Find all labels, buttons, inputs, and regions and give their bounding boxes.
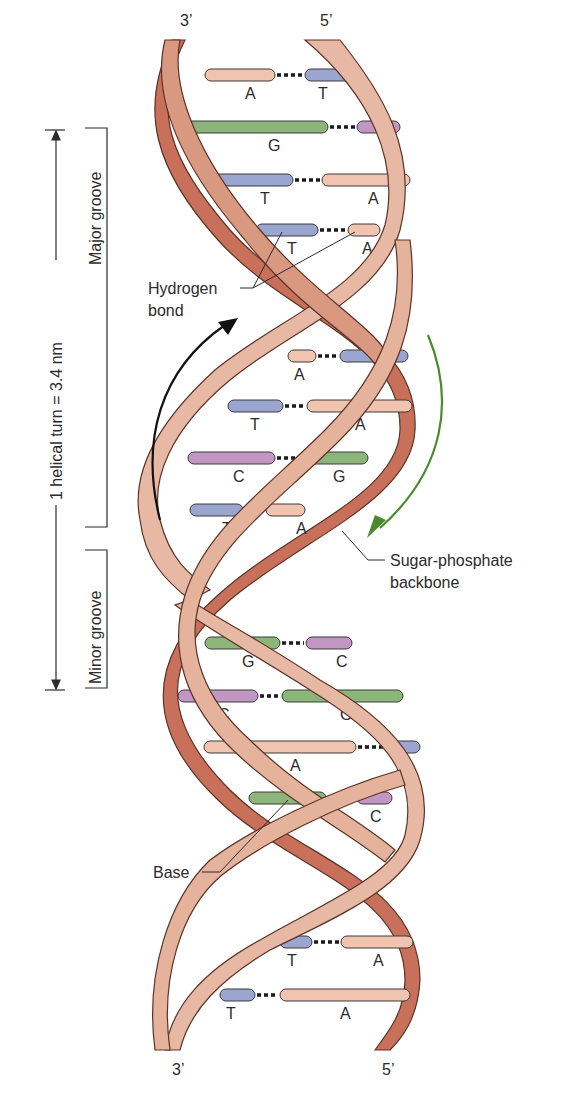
nucleotide-base-left [288, 350, 316, 362]
base-letter-right: A [340, 1005, 351, 1022]
backbone-label-line1: Sugar-phosphate [390, 552, 513, 569]
nucleotide-base-right [306, 637, 352, 649]
top-right-end-label: 5’ [320, 12, 332, 29]
base-letter-right: A [368, 190, 379, 207]
hydrogen-bond-label-line1: Hydrogen [148, 280, 217, 297]
base-pair: TA [228, 400, 412, 433]
base-letter-right: A [373, 952, 384, 969]
nucleotide-base-left [256, 224, 318, 236]
bottom-left-end-label: 3’ [172, 1061, 184, 1078]
base-pair: AT [205, 69, 358, 102]
base-letter-left: A [294, 366, 305, 383]
nucleotide-base-right [341, 936, 413, 948]
base-letter-left: G [242, 653, 254, 670]
base-letter-right: A [296, 520, 307, 537]
dna-double-helix-diagram: ATGCTATAATTACGTAGCCGATGCTATA 3’ 5’ 3’ 5’… [0, 0, 587, 1095]
base-pair: TA [280, 936, 413, 969]
nucleotide-base-left [220, 989, 255, 1001]
base-letter-left: T [260, 190, 270, 207]
major-groove-label: Major groove [87, 172, 104, 265]
minor-groove-label: Minor groove [87, 591, 104, 684]
base-letter-left: T [287, 952, 297, 969]
nucleotide-base-left [190, 504, 243, 516]
rotation-arrow-left-icon [153, 318, 238, 520]
nucleotide-base-left [205, 69, 275, 81]
base-pair: GC [183, 121, 400, 154]
helical-turn-label: 1 helical turn = 3.4 nm [48, 342, 65, 500]
base-letter-left: G [268, 137, 280, 154]
nucleotide-base-left [228, 400, 283, 412]
base-letter-right: G [333, 468, 345, 485]
base-letter-left: T [250, 416, 260, 433]
nucleotide-base-right [348, 224, 380, 236]
nucleotide-base-right [266, 504, 305, 516]
base-label: Base [153, 864, 190, 881]
nucleotide-base-left [178, 690, 258, 702]
nucleotide-base-right [280, 989, 410, 1001]
base-letter-right: C [336, 653, 348, 670]
base-letter-left: T [226, 1005, 236, 1022]
bottom-right-end-label: 5’ [382, 1061, 394, 1078]
backbone-label-line2: backbone [390, 574, 459, 591]
base-letter-left: A [245, 85, 256, 102]
base-letter-left: A [290, 757, 301, 774]
base-letter-left: T [287, 240, 297, 257]
nucleotide-base-left [183, 121, 328, 133]
hydrogen-bond-label-line2: bond [148, 302, 184, 319]
base-letter-left: C [233, 468, 245, 485]
base-letter-right: C [370, 808, 382, 825]
nucleotide-base-left [188, 452, 275, 464]
base-pair: TA [220, 989, 410, 1022]
top-left-end-label: 3’ [180, 12, 192, 29]
base-letter-right: T [318, 85, 328, 102]
backbone-leader [342, 531, 385, 560]
